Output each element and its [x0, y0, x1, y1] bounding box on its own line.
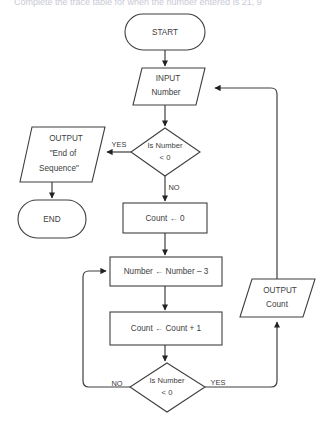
node-input-number[interactable]: INPUT Number: [133, 68, 205, 105]
output-eos-label-line2: "End of: [50, 149, 77, 158]
node-output-count[interactable]: OUTPUT Count: [240, 279, 315, 317]
flowchart-canvas: Complete the trace table for when the nu…: [0, 0, 330, 423]
decision2-label-line2: < 0: [162, 388, 173, 397]
node-start[interactable]: START: [125, 14, 205, 50]
edge-label-no-top: NO: [168, 183, 179, 192]
node-number-subtract[interactable]: Number ← Number – 3: [110, 257, 222, 286]
node-end[interactable]: END: [18, 200, 86, 238]
decision1-label-line1: Is Number: [147, 141, 182, 150]
node-output-end-of-sequence[interactable]: OUTPUT "End of Sequence": [20, 127, 105, 182]
edge-outputcount-to-input: [215, 88, 277, 279]
edge-label-no-bottom: NO: [111, 379, 122, 388]
number-subtract-label: Number ← Number – 3: [124, 267, 209, 276]
edge-label-yes-bottom: YES: [211, 378, 226, 387]
count-init-label: Count ← 0: [145, 214, 185, 223]
node-count-increment[interactable]: Count ← Count + 1: [110, 312, 222, 345]
output-eos-label-line1: OUTPUT: [49, 134, 83, 143]
output-count-label-line2: Count: [266, 300, 289, 309]
page-heading: Complete the trace table for when the nu…: [14, 0, 262, 7]
output-eos-label-line3: Sequence": [39, 164, 79, 173]
count-increment-label: Count ← Count + 1: [131, 324, 202, 333]
decision1-shape: [131, 128, 200, 176]
decision1-label-line2: < 0: [160, 153, 171, 162]
node-decision-is-number-negative-top[interactable]: Is Number < 0: [131, 128, 200, 176]
node-count-init[interactable]: Count ← 0: [123, 203, 207, 233]
flowchart-diagram: Complete the trace table for when the nu…: [0, 0, 330, 423]
input-number-label-line1: INPUT: [156, 74, 181, 83]
edge-label-yes-top: YES: [112, 140, 127, 149]
output-count-shape: [240, 279, 315, 317]
node-decision-is-number-negative-bottom[interactable]: Is Number < 0: [130, 363, 205, 412]
end-label: END: [43, 215, 60, 224]
decision2-label-line1: Is Number: [149, 376, 184, 385]
output-count-label-line1: OUTPUT: [263, 286, 297, 295]
start-label: START: [152, 28, 178, 37]
input-number-label-line2: Number: [151, 88, 180, 97]
